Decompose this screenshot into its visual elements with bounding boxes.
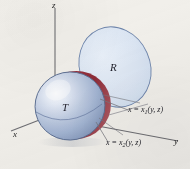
solid-label-T: T bbox=[62, 102, 68, 113]
region-label-R: R bbox=[110, 62, 117, 73]
surface-label-x2: x = x2(y, z) bbox=[106, 139, 141, 147]
surface-label-x1-fn: x bbox=[141, 105, 145, 114]
surface-label-x1-sub: 1 bbox=[145, 109, 148, 115]
diagram-svg bbox=[0, 0, 190, 169]
surface-label-x2-fn: x bbox=[119, 138, 123, 147]
surface-label-x1-args: (y, z) bbox=[148, 105, 164, 114]
y-axis-label: y bbox=[174, 137, 178, 146]
z-axis-label: z bbox=[52, 1, 56, 10]
surface-label-x2-sub: 2 bbox=[123, 142, 126, 148]
surface-label-x2-args: (y, z) bbox=[126, 138, 142, 147]
surface-label-x1: x = x1(y, z) bbox=[128, 106, 163, 114]
x-axis-label: x bbox=[13, 130, 17, 139]
figure-canvas: z x y R T x = x1(y, z) x = x2(y, z) bbox=[0, 0, 190, 169]
